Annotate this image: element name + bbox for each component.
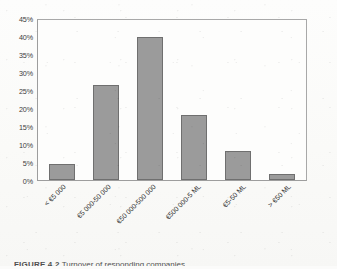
y-axis-tick-label: 35% (19, 51, 33, 60)
y-axis: 0%5%10%15%20%25%30%35%40%45% (0, 19, 35, 181)
bar[interactable] (137, 37, 163, 180)
y-axis-tick-label: 20% (19, 105, 33, 114)
bar-slot (172, 20, 216, 180)
bar[interactable] (93, 85, 119, 180)
x-axis: < €5 000€5 000-50 000€50 000-500 000€500… (37, 181, 307, 243)
bar-slot (216, 20, 260, 180)
y-axis-tick-label: 25% (19, 87, 33, 96)
bar-slot (40, 20, 84, 180)
x-axis-tick-label: €50 000-500 000 (115, 183, 157, 225)
bar[interactable] (269, 174, 295, 180)
y-axis-tick-label: 30% (19, 69, 33, 78)
plot-frame (37, 19, 307, 181)
y-axis-tick-label: 10% (19, 141, 33, 150)
x-axis-tick-label: < €5 000 (42, 183, 66, 207)
x-axis-tick-label: €5 000-50 000 (75, 183, 111, 219)
x-axis-tick-label: > €50 ML (266, 183, 291, 208)
y-axis-tick-label: 0% (23, 177, 33, 186)
bar-chart-figure: 0%5%10%15%20%25%30%35%40%45% < €5 000€5 … (0, 0, 337, 269)
bar-slot (128, 20, 172, 180)
bar[interactable] (181, 115, 207, 180)
bar-slot (84, 20, 128, 180)
y-axis-tick-label: 15% (19, 123, 33, 132)
y-axis-tick-label: 5% (23, 159, 33, 168)
bar[interactable] (49, 164, 75, 180)
bar[interactable] (225, 151, 251, 180)
bar-slot (260, 20, 304, 180)
y-axis-tick-label: 45% (19, 15, 33, 24)
x-axis-tick-label: €500 000-5 ML (164, 183, 202, 221)
plot-area (38, 20, 306, 180)
y-axis-tick-label: 40% (19, 33, 33, 42)
x-axis-tick-label: €5-50 ML (221, 183, 247, 209)
